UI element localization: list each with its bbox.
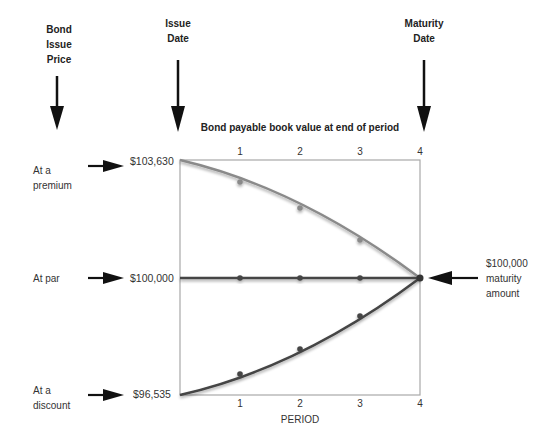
par-line [180, 275, 420, 281]
par-right-arrow-icon [88, 272, 124, 284]
premium-right-arrow-icon [88, 160, 124, 172]
discount-curve [180, 278, 420, 395]
maturity-point [417, 275, 424, 282]
bond-issue-price-down-arrow-icon [50, 76, 64, 130]
discount-right-arrow-icon [88, 389, 124, 401]
premium-curve [180, 160, 420, 278]
issue-date-down-arrow-icon [171, 60, 185, 132]
maturity-date-down-arrow-icon [417, 60, 431, 132]
maturity-left-arrow-icon [428, 271, 478, 285]
diagram-graphics [0, 0, 559, 444]
